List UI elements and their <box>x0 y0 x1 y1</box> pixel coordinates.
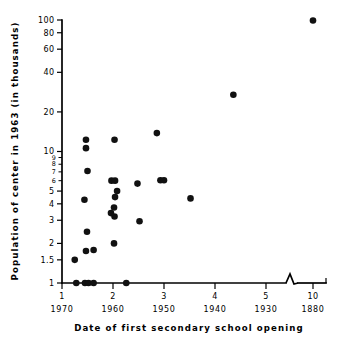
data-point <box>84 229 91 236</box>
data-point <box>83 145 90 152</box>
x-axis-title: Date of first secondary school opening <box>74 323 304 333</box>
x-axis-year-labels: 197019601950194019301880 <box>51 305 325 314</box>
data-point <box>134 180 141 187</box>
x-tick-label: 2 <box>110 292 116 301</box>
x-year-label: 1880 <box>302 305 325 314</box>
y-tick-label: 3 <box>49 216 55 225</box>
data-points <box>71 17 316 286</box>
y-tick-label: 20 <box>44 108 55 117</box>
y-tick-label: 6 <box>52 177 56 185</box>
y-tick-label: 2 <box>49 239 55 248</box>
data-point <box>154 130 161 137</box>
x-tick-label: 5 <box>263 292 269 301</box>
data-point <box>81 196 88 203</box>
y-tick-label: 4 <box>49 200 55 209</box>
data-point <box>90 280 97 287</box>
data-point <box>90 247 97 254</box>
x-year-label: 1960 <box>102 305 125 314</box>
x-tick-label: 1 <box>59 292 65 301</box>
y-tick-label: 7 <box>52 168 56 176</box>
data-point <box>310 17 317 24</box>
data-point <box>161 177 168 184</box>
x-year-label: 1940 <box>204 305 227 314</box>
scatter-plot: 1008060402010987654321.51 1234510 197019… <box>0 0 338 345</box>
chart-figure: 1008060402010987654321.51 1234510 197019… <box>0 0 338 345</box>
x-tick-label: 10 <box>308 292 319 301</box>
y-tick-label: 80 <box>44 29 55 38</box>
data-point <box>73 280 80 287</box>
data-point <box>83 248 90 255</box>
data-point <box>111 136 118 143</box>
data-point <box>108 210 115 217</box>
data-point <box>83 136 90 143</box>
data-point <box>111 240 118 247</box>
data-point <box>230 91 237 98</box>
x-tick-label: 3 <box>161 292 167 301</box>
y-tick-label: 60 <box>44 45 55 54</box>
x-year-label: 1950 <box>153 305 176 314</box>
data-point <box>136 218 143 225</box>
x-year-label: 1930 <box>255 305 278 314</box>
x-year-label: 1970 <box>51 305 74 314</box>
y-axis-title: Population of center in 1963 (in thousan… <box>10 22 20 281</box>
x-axis-tick-labels: 1234510 <box>59 292 318 301</box>
y-tick-label: 5 <box>49 187 55 196</box>
y-tick-label: 100 <box>38 16 54 25</box>
y-tick-label: 1.5 <box>41 256 55 265</box>
data-point <box>71 257 78 264</box>
y-tick-label: 40 <box>44 68 55 77</box>
data-point <box>123 280 130 287</box>
axis-break-mark <box>286 274 298 284</box>
y-axis-tick-labels: 1008060402010987654321.51 <box>38 16 56 288</box>
data-point <box>187 195 194 202</box>
y-tick-label: 1 <box>49 279 55 288</box>
data-point <box>114 188 121 195</box>
data-point <box>111 204 118 211</box>
x-tick-label: 4 <box>212 292 218 301</box>
plot-axes <box>62 20 326 284</box>
data-point <box>112 194 119 201</box>
data-point <box>112 177 119 184</box>
data-point <box>84 168 91 175</box>
